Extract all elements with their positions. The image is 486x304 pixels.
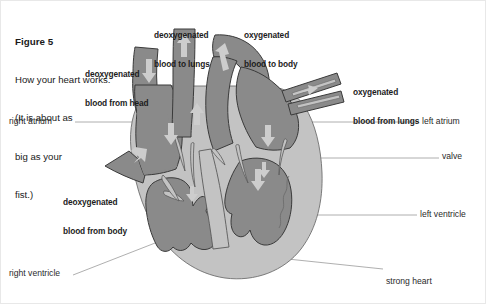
label-deoxygenated-blood-from-body-line-2: blood from body [63,227,127,237]
figure-caption-line-3: big as your [15,151,110,164]
label-right-ventricle: right ventricle [9,269,60,279]
label-valve: valve [442,152,462,162]
label-oxygenated-blood-from-lungs: oxygenated blood from lungs [353,69,419,146]
label-oxygenated-blood-from-lungs-line-2: blood from lungs [353,117,419,127]
label-deoxygenated-blood-to-lungs-line-2: blood to lungs [154,60,210,70]
label-left-ventricle: left ventricle [420,210,466,220]
label-deoxygenated-blood-from-head-line-1: deoxygenated [85,70,149,80]
label-left-atrium: left atrium [422,117,460,127]
label-oxygenated-blood-from-lungs-line-1: oxygenated [353,88,419,98]
label-right-atrium: right atrium [9,117,52,127]
label-deoxygenated-blood-to-lungs-line-1: deoxygenated [154,31,210,41]
figure-number: Figure 5 [15,35,110,48]
label-deoxygenated-blood-from-body-line-1: deoxygenated [63,198,127,208]
label-deoxygenated-blood-from-head: deoxygenated blood from head [85,51,149,128]
label-oxygenated-blood-to-body-line-2: blood to body [244,60,298,70]
label-oxygenated-blood-to-body-line-1: oxygenated [244,31,298,41]
heart-figure: Figure 5 How your heart works. (It is ab… [0,0,486,304]
label-deoxygenated-blood-from-body: deoxygenated blood from body [63,179,127,256]
label-strong-heart-muscle-line-1: strong heart [386,277,461,287]
label-deoxygenated-blood-to-lungs: deoxygenated blood to lungs [154,12,210,89]
label-strong-heart-muscle: strong heart muscle for pumping [386,257,461,304]
label-deoxygenated-blood-from-head-line-2: blood from head [85,99,149,109]
label-oxygenated-blood-to-body: oxygenated blood to body [244,12,298,89]
